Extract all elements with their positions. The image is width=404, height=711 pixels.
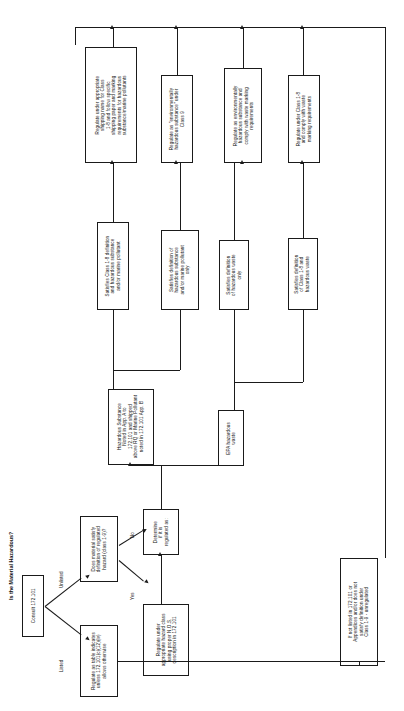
epa-hazardous-waste-box: EPA hazardous waste [218, 410, 244, 466]
edge-unregulated-join [359, 661, 360, 666]
edge-yes-to-determine-arrow [158, 552, 162, 556]
edge-hazsub-split [113, 370, 180, 371]
regulate-class-1-8-waste-marking-box-text: Regulate under Class 1-8 and comply with… [296, 92, 312, 147]
edge-res4-to-top [303, 27, 304, 75]
edge-collector-left-down [75, 27, 76, 45]
edge-cat2-to-res2 [180, 163, 181, 230]
satisfies-hazwaste-only-box-text: Satisfies definition of hazardous waste … [226, 254, 242, 296]
page-title-text: Is the Material Hazardous? [8, 532, 14, 600]
edge-epa-to-cat4 [303, 310, 304, 382]
regulate-environmentally-hazardous-box-text: Regulate as "environmentally hazardous s… [169, 88, 185, 150]
regulate-as-table-box-text: Regulate as table indicates unless 172.1… [91, 632, 107, 690]
regulate-nos-box: Regulate under appropriate hazard class … [143, 604, 189, 676]
unregulated-box-text: If not listed in 172.101 or Appendices a… [348, 582, 370, 642]
edge-epa-split [234, 382, 303, 383]
regulate-environmentally-hazardous-waste-marking-box: Regulate as environmentally hazardous su… [224, 68, 262, 163]
satisfies-hazsub-only-box: Satisfies definition of hazardous substa… [161, 230, 199, 310]
flowchart-canvas: Is the Material Hazardous? Consult 172.1… [0, 0, 404, 711]
does-material-satisfy-box: Does material satisfy definition of regu… [80, 516, 118, 582]
satisfies-class-1-8-and-hazsub-box: Satisfies Class 1-8 definition and hazar… [97, 222, 129, 310]
regulate-environmentally-hazardous-box: Regulate as "environmentally hazardous s… [161, 75, 193, 163]
regulate-appropriate-shipping-name-box-text: Regulate under appropriate shipping name… [95, 75, 127, 135]
edge-hazsub-to-cat1 [113, 310, 114, 389]
edge-res3-to-top [243, 27, 244, 68]
edge-cat4-to-res4-arrow [300, 160, 304, 164]
hazardous-substance-box: Hazardous Substance Noted in App. A to 1… [108, 389, 154, 465]
edge-hazsub-to-cat2 [180, 310, 181, 370]
consult-box: Consult 172.101 [22, 575, 44, 637]
edge-cat1-to-res1 [113, 163, 114, 222]
edge-question-to-yes-arrow [144, 579, 150, 585]
consult-box-text: Consult 172.101 [30, 589, 35, 624]
epa-hazardous-waste-box-text: EPA hazardous waste [226, 422, 237, 455]
determine-regulated-box: Determine if it is regulated as: [143, 509, 179, 555]
regulate-as-table-box: Regulate as table indicates unless 172.1… [80, 625, 118, 697]
edge-cat2-to-res2-arrow [174, 160, 178, 164]
determine-regulated-box-text: Determine if it is regulated as: [153, 518, 169, 546]
edge-label-no: No [131, 538, 137, 543]
edge-epa-to-cat3 [234, 310, 235, 410]
edge-to-hazsub-arrow [128, 462, 132, 466]
edge-unregulated-bottom [340, 661, 385, 662]
unregulated-box: If not listed in 172.101 or Appendices a… [340, 558, 378, 666]
edge-res2-to-top [177, 27, 178, 75]
edge-res1-to-top [113, 27, 114, 47]
edge-res4-to-top-arrow [300, 25, 304, 29]
edge-cat4-to-res4 [303, 163, 304, 238]
edge-cat3-to-res3-arrow [240, 160, 244, 164]
regulate-nos-box-text: Regulate under appropriate hazard class … [155, 614, 177, 667]
satisfies-class-1-8-and-hazwaste-box: Satisfies definition of Class 1-8 and ha… [288, 238, 318, 310]
edge-cat3-to-res3 [234, 163, 235, 240]
edge-top-collector [75, 27, 385, 28]
edge-question-to-yes [119, 560, 144, 581]
hazardous-substance-box-text: Hazardous Substance Noted in App. A to 1… [117, 395, 144, 458]
edge-determine-hub [131, 465, 231, 466]
edge-start-to-listed [45, 606, 82, 635]
edge-right-spine [385, 27, 386, 558]
regulate-appropriate-shipping-name-box: Regulate under appropriate shipping name… [85, 47, 137, 163]
satisfies-hazsub-only-box-text: Satisfies definition of hazardous substa… [169, 245, 191, 294]
satisfies-class-1-8-and-hazsub-box-text: Satisfies Class 1-8 definition and hazar… [105, 236, 121, 297]
satisfies-hazwaste-only-box: Satisfies definition of hazardous waste … [219, 240, 249, 310]
satisfies-class-1-8-and-hazwaste-box-text: Satisfies definition of Class 1-8 and ha… [295, 254, 311, 293]
edge-label-listed: Listed [60, 672, 72, 677]
edge-res3-to-top-arrow [240, 25, 244, 29]
does-material-satisfy-box-text: Does material satisfy definition of regu… [91, 526, 107, 572]
edge-res1-to-top-arrow [110, 25, 114, 29]
edge-label-yes: Yes [131, 600, 139, 605]
edge-res2-to-top-arrow [174, 25, 178, 29]
regulate-class-1-8-waste-marking-box: Regulate under Class 1-8 and comply with… [288, 75, 320, 163]
edge-determine-up [161, 465, 162, 509]
edge-listed-to-right [118, 661, 340, 662]
edge-yes-to-determine [161, 555, 162, 604]
regulate-environmentally-hazardous-waste-marking-box-text: Regulate as environmentally hazardous su… [232, 85, 254, 146]
edge-cat1-to-res1-arrow [110, 160, 114, 164]
